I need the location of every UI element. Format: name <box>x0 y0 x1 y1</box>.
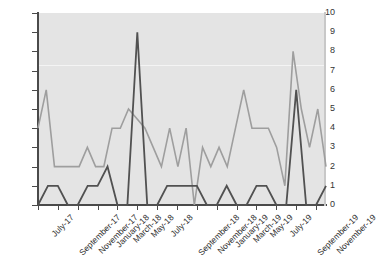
x-axis-tick-mark <box>78 206 79 210</box>
x-axis-tick-label: July-17 <box>50 213 75 238</box>
x-axis-tick-mark <box>237 206 238 210</box>
x-axis-tick-mark <box>137 206 138 210</box>
x-axis-tick-mark <box>38 206 39 210</box>
x-axis-tick-mark <box>98 206 99 210</box>
x-axis-tick-mark <box>296 206 297 210</box>
x-axis-tick-mark <box>117 206 118 210</box>
x-axis-tick-mark <box>58 206 59 210</box>
x-axis-tick-mark <box>276 206 277 210</box>
x-axis-tick-mark <box>177 206 178 210</box>
series-layer <box>38 13 326 205</box>
x-axis-tick-mark <box>157 206 158 210</box>
x-axis-tick-mark <box>316 206 317 210</box>
series-line-light-series <box>38 51 326 205</box>
x-axis-tick-mark <box>197 206 198 210</box>
x-axis-tick-mark <box>256 206 257 210</box>
x-axis-tick-mark <box>217 206 218 210</box>
